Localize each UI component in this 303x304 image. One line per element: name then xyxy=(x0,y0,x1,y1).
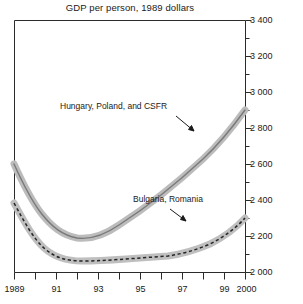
series-hungary-poland-csfr-band xyxy=(14,110,245,238)
annotation-hungary-poland-csfr: Hungary, Poland, and CSFR xyxy=(60,101,167,111)
x-axis-ticks xyxy=(15,273,246,280)
y-tick-label-3400: 3 400 xyxy=(250,15,273,25)
x-tick-label-2000: 2000 xyxy=(232,284,261,294)
y-tick-label-3000: 3 000 xyxy=(250,87,273,97)
chart-container: GDP per person, 1989 dollars xyxy=(0,0,303,304)
x-tick-label-1989: 1989 xyxy=(0,284,29,294)
y-tick-label-2600: 2 600 xyxy=(250,159,273,169)
x-tick-label-93: 93 xyxy=(88,284,109,294)
series-bulgaria-romania-line xyxy=(14,203,245,261)
leader-arrow-bulgaria xyxy=(181,216,187,222)
annotation-bulgaria-romania: Bulgaria, Romania xyxy=(133,194,203,204)
series-bulgaria-romania xyxy=(14,203,245,261)
y-tick-label-2400: 2 400 xyxy=(250,195,273,205)
y-tick-label-2200: 2 200 xyxy=(250,231,273,241)
y-tick-label-2800: 2 800 xyxy=(250,123,273,133)
leader-arrow-hungary xyxy=(189,126,195,132)
y-tick-label-3200: 3 200 xyxy=(250,51,273,61)
y-tick-label-2000: 2 000 xyxy=(250,267,273,277)
series-hungary-poland-csfr xyxy=(14,110,245,238)
x-tick-label-97: 97 xyxy=(172,284,193,294)
plot-area xyxy=(0,0,303,304)
x-tick-label-95: 95 xyxy=(130,284,151,294)
x-tick-label-91: 91 xyxy=(46,284,67,294)
